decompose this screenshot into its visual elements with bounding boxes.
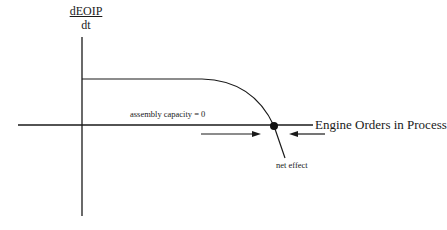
arrow-left-head-icon <box>289 131 298 137</box>
y-axis-label: dEOIP dt <box>64 4 108 32</box>
capacity-annotation: assembly capacity = 0 <box>130 109 205 119</box>
x-axis-label: Engine Orders in Process <box>315 117 447 133</box>
net-effect-annotation: net effect <box>276 160 308 170</box>
arrow-right-head-icon <box>252 131 261 137</box>
y-axis-numerator: dEOIP <box>64 4 108 18</box>
equilibrium-point <box>270 122 278 130</box>
y-axis-denominator: dt <box>64 18 108 32</box>
